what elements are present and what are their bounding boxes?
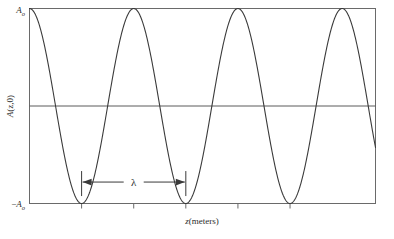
y-bottom-subscript: o: [22, 204, 26, 211]
y-axis-arguments: (z,0): [5, 95, 15, 112]
chart-svg: λ Ao −Ao A(z,0) z(meters): [0, 0, 394, 239]
x-axis-ticks: [82, 204, 290, 209]
wavelength-arrowhead-right: [176, 179, 185, 186]
wavelength-label: λ: [131, 176, 137, 188]
x-axis-title: z(meters): [184, 216, 219, 226]
wave-chart-figure: λ Ao −Ao A(z,0) z(meters): [0, 0, 394, 239]
y-top-subscript: o: [22, 10, 26, 17]
y-axis-top-tick-label: Ao: [15, 5, 26, 17]
y-axis-bottom-tick-label: −Ao: [11, 199, 26, 211]
x-axis-unit: (meters): [189, 216, 219, 226]
y-axis-title: A(z,0): [5, 95, 15, 118]
wavelength-arrowhead-left: [83, 179, 92, 186]
wavelength-annotation: λ: [82, 171, 186, 196]
